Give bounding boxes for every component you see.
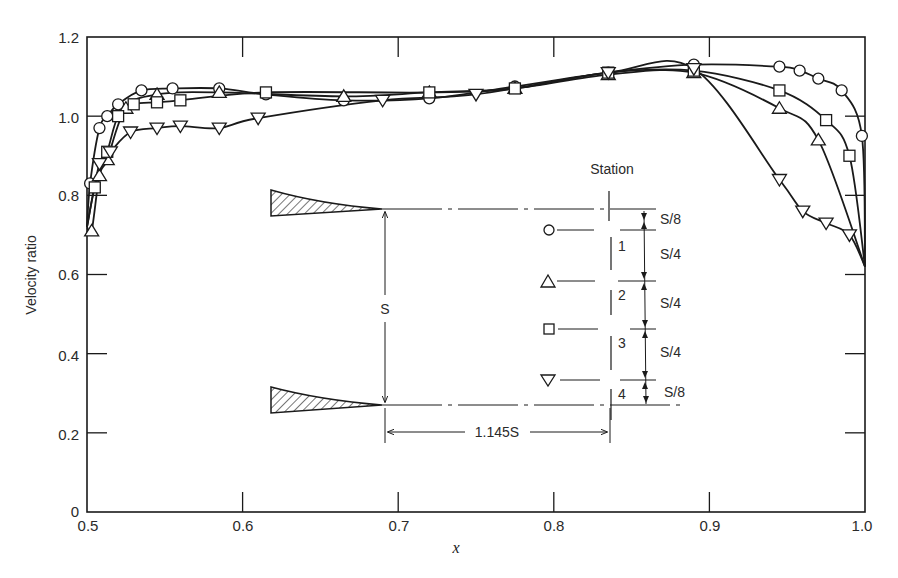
x-tick-label: 0.9 <box>700 517 721 534</box>
triangle-up-marker-icon <box>772 102 786 114</box>
spacing-label: S/8 <box>660 211 681 227</box>
spacing-label: S/4 <box>660 246 681 262</box>
triangle-down-marker-icon <box>796 206 810 218</box>
spacing-label: S/8 <box>664 384 685 400</box>
upper-blade-shape <box>271 190 382 216</box>
spacing-label: S/4 <box>660 344 681 360</box>
square-marker-icon <box>89 182 100 193</box>
x-tick-label: 0.6 <box>233 517 254 534</box>
circle-marker-icon <box>813 73 824 84</box>
station-number: 2 <box>618 287 626 303</box>
square-marker-icon <box>260 87 271 98</box>
square-marker-icon <box>509 83 520 94</box>
station-title: Station <box>590 161 634 177</box>
x-axis-title: x <box>451 539 459 556</box>
square-marker-icon <box>424 87 435 98</box>
station-number: 1 <box>618 238 626 254</box>
lower-blade-shape <box>271 387 382 413</box>
triangle-down-marker-icon <box>124 127 138 139</box>
pitch-label: S <box>380 301 389 317</box>
axis-ticks <box>87 37 865 512</box>
y-tick-label: 1.0 <box>58 109 79 126</box>
circle-marker-icon <box>774 61 785 72</box>
triangle-down-marker-icon <box>541 375 555 386</box>
x-tick-label: 0.7 <box>389 517 410 534</box>
triangle-down-marker-icon <box>772 175 786 187</box>
square-marker-icon <box>844 150 855 161</box>
y-tick-label: 1.2 <box>58 29 79 46</box>
spacing-label: S/4 <box>660 295 681 311</box>
circle-marker-icon <box>136 85 147 96</box>
station-number: 3 <box>618 335 626 351</box>
y-tick-label: 0.6 <box>58 266 79 283</box>
x-tick-label: 0.8 <box>544 517 565 534</box>
axial-distance-label: 1.145S <box>475 424 519 440</box>
square-marker-icon <box>128 99 139 110</box>
triangle-up-marker-icon <box>541 275 555 287</box>
circle-marker-icon <box>794 65 805 76</box>
triangle-up-marker-icon <box>811 133 825 145</box>
circle-marker-icon <box>836 85 847 96</box>
velocity-ratio-chart: 0 0.2 0.4 0.6 0.8 1.0 1.2 0.5 0.6 0.7 0.… <box>0 0 898 578</box>
square-marker-icon <box>821 115 832 126</box>
y-tick-labels: 0 0.2 0.4 0.6 0.8 1.0 1.2 <box>58 29 79 520</box>
y-axis-title: Velocity ratio <box>23 235 39 315</box>
circle-marker-icon <box>856 130 867 141</box>
plot-frame <box>87 37 865 512</box>
y-tick-label: 0.8 <box>58 187 79 204</box>
cascade-inset-diagram: S 1.145S Station <box>271 161 685 443</box>
x-tick-label: 0.5 <box>78 517 99 534</box>
circle-marker-icon <box>544 225 554 235</box>
x-tick-labels: 0.5 0.6 0.7 0.8 0.9 1.0 <box>78 517 873 534</box>
square-marker-icon <box>774 85 785 96</box>
x-tick-label: 1.0 <box>852 517 873 534</box>
circle-marker-icon <box>167 83 178 94</box>
square-marker-icon <box>152 97 163 108</box>
circle-marker-icon <box>94 123 105 134</box>
station-number: 4 <box>618 386 626 402</box>
square-marker-icon <box>175 95 186 106</box>
data-series <box>85 59 868 266</box>
y-tick-label: 0.4 <box>58 347 79 364</box>
triangle-down-marker-icon <box>819 218 833 230</box>
circle-marker-icon <box>102 111 113 122</box>
square-marker-icon <box>113 111 124 122</box>
square-marker-icon <box>544 324 554 334</box>
y-tick-label: 0.2 <box>58 426 79 443</box>
